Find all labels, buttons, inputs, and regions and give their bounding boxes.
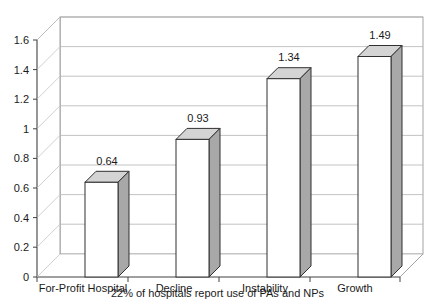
value-label-decline: 0.93	[187, 112, 208, 124]
y-tick-label-1.6: 1.6	[14, 34, 29, 46]
y-tick-label-1.2: 1.2	[14, 93, 29, 105]
value-label-for-profit-hospital: 0.64	[96, 155, 117, 167]
bar-side-face	[391, 46, 402, 278]
y-tick-label-1.4: 1.4	[14, 64, 29, 76]
bar-decline[interactable]	[176, 128, 220, 277]
bar-growth[interactable]	[358, 46, 402, 278]
bar-front-face	[358, 57, 391, 278]
bar-front-face	[85, 182, 118, 277]
y-tick-label-0.4: 0.4	[14, 212, 29, 224]
bar-instability[interactable]	[267, 68, 311, 277]
bar-for-profit-hospital[interactable]	[85, 171, 129, 277]
bar-front-face	[176, 139, 209, 277]
value-label-instability: 1.34	[278, 51, 299, 63]
bar-side-face	[300, 68, 311, 277]
y-axis-labels: 1.6 1.4 1.2 1 0.8 0.6 0.4 0.2 0	[14, 34, 29, 283]
bar-chart-3d: 1.6 1.4 1.2 1 0.8 0.6 0.4 0.2 0	[0, 0, 435, 301]
y-tick-label-0.8: 0.8	[14, 152, 29, 164]
chart-container: 1.6 1.4 1.2 1 0.8 0.6 0.4 0.2 0	[0, 0, 435, 301]
value-label-growth: 1.49	[369, 29, 390, 41]
y-axis-ticks	[33, 40, 37, 277]
y-tick-label-1: 1	[23, 123, 29, 135]
bar-side-face	[209, 128, 220, 277]
y-tick-label-0.6: 0.6	[14, 182, 29, 194]
y-tick-label-0.2: 0.2	[14, 241, 29, 253]
x-axis-title-text: 22% of hospitals report use of PAs and N…	[111, 287, 324, 299]
y-tick-label-0: 0	[23, 271, 29, 283]
x-axis-title: 22% of hospitals report use of PAs and N…	[0, 283, 435, 301]
bar-front-face	[267, 79, 300, 277]
bar-side-face	[118, 171, 129, 277]
